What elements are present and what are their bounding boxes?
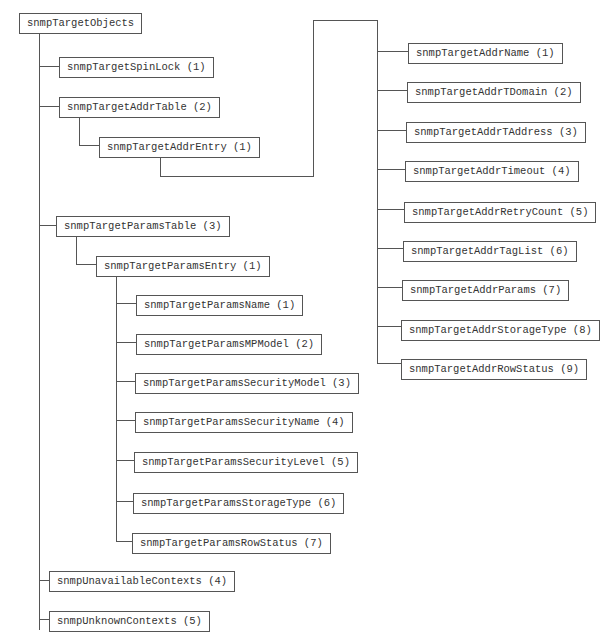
node-unknown-contexts: snmpUnknownContexts (5) xyxy=(49,611,210,632)
node-params-name: snmpTargetParamsName (1) xyxy=(136,295,303,316)
node-addr-table: snmpTargetAddrTable (2) xyxy=(59,97,220,118)
node-params-security-model: snmpTargetParamsSecurityModel (3) xyxy=(135,373,359,394)
trunk-line xyxy=(39,33,40,630)
branch-params-child-3 xyxy=(116,381,136,382)
node-addr-storage-type: snmpTargetAddrStorageType (8) xyxy=(401,320,600,341)
node-params-storage-type: snmpTargetParamsStorageType (6) xyxy=(133,493,344,514)
branch-addr-child-6 xyxy=(377,248,403,249)
branch-addr-table xyxy=(39,106,59,107)
addr-children-trunk xyxy=(377,20,378,363)
node-params-row-status: snmpTargetParamsRowStatus (7) xyxy=(132,533,331,554)
addr-table-stem xyxy=(79,115,80,145)
node-params-table: snmpTargetParamsTable (3) xyxy=(56,216,230,237)
branch-unavailable xyxy=(39,580,49,581)
branch-addr-child-3 xyxy=(377,130,406,131)
branch-params-child-1 xyxy=(116,303,136,304)
branch-addr-child-9 xyxy=(377,363,401,364)
branch-addr-child-5 xyxy=(377,209,404,210)
node-params-entry: snmpTargetParamsEntry (1) xyxy=(96,256,270,277)
node-addr-tag-list: snmpTargetAddrTagList (6) xyxy=(403,241,577,262)
branch-addr-child-7 xyxy=(377,287,402,288)
branch-params-child-6 xyxy=(116,501,133,502)
branch-params-table xyxy=(39,225,56,226)
node-addr-tdomain: snmpTargetAddrTDomain (2) xyxy=(407,82,581,103)
branch-addr-child-2 xyxy=(377,90,407,91)
branch-params-child-5 xyxy=(116,460,134,461)
node-unavailable-contexts: snmpUnavailableContexts (4) xyxy=(49,571,235,592)
addr-entry-route-bottom xyxy=(160,176,313,177)
node-addr-row-status: snmpTargetAddrRowStatus (9) xyxy=(401,359,587,380)
branch-unknown xyxy=(39,619,49,620)
node-spinlock: snmpTargetSpinLock (1) xyxy=(59,57,214,78)
addr-entry-stem xyxy=(160,156,161,176)
node-params-security-level: snmpTargetParamsSecurityLevel (5) xyxy=(134,452,358,473)
branch-addr-child-8 xyxy=(377,326,401,327)
params-entry-branch xyxy=(76,264,96,265)
node-addr-taddress: snmpTargetAddrTAddress (3) xyxy=(406,122,586,143)
branch-params-child-7 xyxy=(116,541,132,542)
node-addr-entry: snmpTargetAddrEntry (1) xyxy=(99,137,260,158)
addr-entry-branch xyxy=(79,145,99,146)
node-addr-name: snmpTargetAddrName (1) xyxy=(408,43,563,64)
branch-spinlock xyxy=(39,66,59,67)
node-addr-retry-count: snmpTargetAddrRetryCount (5) xyxy=(404,202,596,223)
branch-addr-child-1 xyxy=(377,51,408,52)
addr-entry-route-top xyxy=(313,20,378,21)
branch-addr-child-4 xyxy=(377,169,405,170)
node-snmp-target-objects: snmpTargetObjects xyxy=(19,13,142,34)
branch-params-child-2 xyxy=(116,342,136,343)
node-params-mp-model: snmpTargetParamsMPModel (2) xyxy=(136,334,322,355)
node-addr-params: snmpTargetAddrParams (7) xyxy=(402,280,569,301)
mib-tree-diagram: snmpTargetObjects snmpTargetSpinLock (1)… xyxy=(0,0,607,643)
node-params-security-name: snmpTargetParamsSecurityName (4) xyxy=(135,412,353,433)
addr-entry-route-up xyxy=(313,20,314,177)
branch-params-child-4 xyxy=(116,420,135,421)
params-table-stem xyxy=(76,234,77,264)
node-addr-timeout: snmpTargetAddrTimeout (4) xyxy=(405,161,579,182)
